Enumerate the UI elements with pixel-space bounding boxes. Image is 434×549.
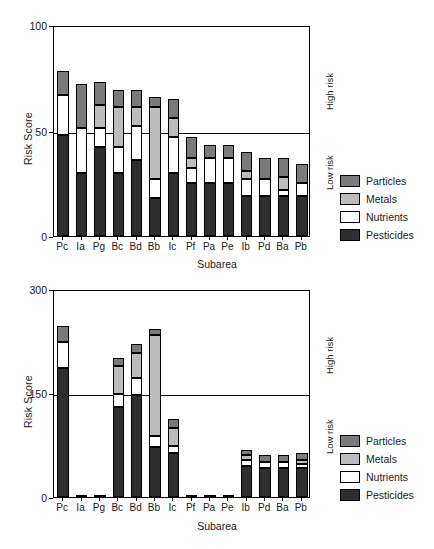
bar-segment-pesticides[interactable] xyxy=(113,407,124,497)
bar-stack[interactable] xyxy=(94,495,105,497)
bar-segment-particles[interactable] xyxy=(204,145,215,158)
bar-segment-nutrients[interactable] xyxy=(204,158,215,183)
bar-segment-pesticides[interactable] xyxy=(241,196,252,236)
bar-stack[interactable] xyxy=(57,326,68,497)
bar-segment-pesticides[interactable] xyxy=(94,147,105,236)
bar-stack[interactable] xyxy=(296,453,307,497)
bar-stack[interactable] xyxy=(278,455,289,497)
bar-segment-pesticides[interactable] xyxy=(149,198,160,236)
bar-segment-particles[interactable] xyxy=(76,84,87,128)
bar-stack[interactable] xyxy=(94,82,105,236)
bar-segment-metals[interactable] xyxy=(241,171,252,179)
bar-segment-pesticides[interactable] xyxy=(204,495,215,497)
bar-segment-pesticides[interactable] xyxy=(278,468,289,497)
bar-stack[interactable] xyxy=(131,90,142,236)
bar-segment-nutrients[interactable] xyxy=(296,183,307,196)
bar-stack[interactable] xyxy=(113,90,124,236)
bar-stack[interactable] xyxy=(259,158,270,236)
bar-segment-particles[interactable] xyxy=(131,344,142,353)
bar-stack[interactable] xyxy=(259,455,270,497)
bar-stack[interactable] xyxy=(241,450,252,497)
bar-segment-metals[interactable] xyxy=(113,107,124,147)
bar-stack[interactable] xyxy=(149,97,160,236)
bar-segment-pesticides[interactable] xyxy=(186,183,197,236)
bar-segment-particles[interactable] xyxy=(113,90,124,107)
bar-segment-pesticides[interactable] xyxy=(57,368,68,497)
bar-segment-particles[interactable] xyxy=(259,455,270,462)
bar-segment-pesticides[interactable] xyxy=(278,196,289,236)
bar-segment-particles[interactable] xyxy=(186,137,197,158)
bar-segment-nutrients[interactable] xyxy=(278,462,289,468)
bar-segment-pesticides[interactable] xyxy=(168,453,179,497)
bar-stack[interactable] xyxy=(76,495,87,497)
bar-segment-metals[interactable] xyxy=(186,158,197,169)
bar-segment-particles[interactable] xyxy=(241,450,252,456)
bar-segment-nutrients[interactable] xyxy=(168,137,179,173)
bar-segment-pesticides[interactable] xyxy=(94,495,105,497)
bar-segment-nutrients[interactable] xyxy=(113,147,124,172)
bar-segment-metals[interactable] xyxy=(168,118,179,137)
bar-segment-pesticides[interactable] xyxy=(131,395,142,497)
bar-segment-nutrients[interactable] xyxy=(76,128,87,172)
bar-segment-particles[interactable] xyxy=(296,453,307,460)
bar-segment-pesticides[interactable] xyxy=(259,196,270,236)
bar-segment-pesticides[interactable] xyxy=(168,173,179,236)
bar-segment-pesticides[interactable] xyxy=(204,183,215,236)
bar-stack[interactable] xyxy=(57,71,68,236)
bar-stack[interactable] xyxy=(241,152,252,236)
bar-segment-nutrients[interactable] xyxy=(241,460,252,466)
bar-segment-particles[interactable] xyxy=(131,90,142,107)
bar-stack[interactable] xyxy=(204,145,215,236)
bar-segment-nutrients[interactable] xyxy=(113,394,124,407)
bar-segment-pesticides[interactable] xyxy=(76,173,87,236)
bar-segment-particles[interactable] xyxy=(241,152,252,171)
bar-segment-nutrients[interactable] xyxy=(131,378,142,395)
bar-segment-pesticides[interactable] xyxy=(113,173,124,236)
bar-stack[interactable] xyxy=(296,164,307,236)
bar-segment-metals[interactable] xyxy=(241,455,252,459)
bar-segment-particles[interactable] xyxy=(223,145,234,158)
bar-stack[interactable] xyxy=(76,84,87,236)
bar-stack[interactable] xyxy=(186,495,197,497)
bar-segment-nutrients[interactable] xyxy=(149,436,160,447)
bar-segment-metals[interactable] xyxy=(149,335,160,436)
bar-segment-pesticides[interactable] xyxy=(76,495,87,497)
bar-segment-particles[interactable] xyxy=(149,329,160,335)
bar-stack[interactable] xyxy=(186,137,197,236)
bar-segment-pesticides[interactable] xyxy=(57,135,68,236)
bar-segment-particles[interactable] xyxy=(278,158,289,177)
bar-segment-particles[interactable] xyxy=(296,164,307,183)
bar-segment-metals[interactable] xyxy=(149,107,160,179)
bar-segment-particles[interactable] xyxy=(57,326,68,342)
bar-stack[interactable] xyxy=(149,329,160,497)
bar-segment-nutrients[interactable] xyxy=(223,158,234,183)
bar-segment-metals[interactable] xyxy=(94,105,105,128)
bar-segment-pesticides[interactable] xyxy=(223,183,234,236)
bar-stack[interactable] xyxy=(278,158,289,236)
bar-segment-metals[interactable] xyxy=(131,353,142,379)
bar-segment-pesticides[interactable] xyxy=(186,495,197,497)
bar-segment-nutrients[interactable] xyxy=(57,95,68,135)
bar-segment-pesticides[interactable] xyxy=(296,196,307,236)
bar-segment-pesticides[interactable] xyxy=(149,447,160,497)
bar-segment-particles[interactable] xyxy=(168,99,179,118)
bar-stack[interactable] xyxy=(168,419,179,497)
bar-segment-nutrients[interactable] xyxy=(259,179,270,196)
bar-segment-nutrients[interactable] xyxy=(57,342,68,368)
bar-segment-nutrients[interactable] xyxy=(94,128,105,147)
bar-stack[interactable] xyxy=(131,344,142,497)
bar-segment-pesticides[interactable] xyxy=(131,160,142,236)
bar-segment-particles[interactable] xyxy=(259,158,270,179)
bar-stack[interactable] xyxy=(168,99,179,236)
bar-segment-metals[interactable] xyxy=(296,460,307,464)
bar-segment-metals[interactable] xyxy=(131,107,142,126)
bar-segment-particles[interactable] xyxy=(149,97,160,108)
bar-segment-nutrients[interactable] xyxy=(278,190,289,196)
bar-segment-particles[interactable] xyxy=(278,455,289,462)
bar-segment-particles[interactable] xyxy=(57,71,68,94)
bar-segment-nutrients[interactable] xyxy=(168,446,179,452)
bar-stack[interactable] xyxy=(223,145,234,236)
bar-stack[interactable] xyxy=(223,495,234,497)
bar-segment-nutrients[interactable] xyxy=(186,168,197,183)
bar-stack[interactable] xyxy=(113,358,124,497)
